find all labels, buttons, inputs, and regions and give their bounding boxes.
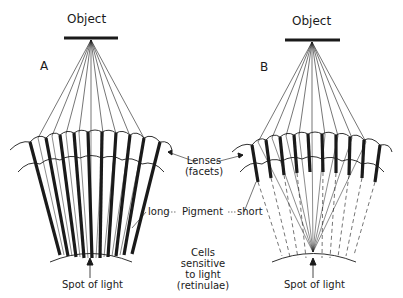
cells-label-line1: Cells (175, 247, 231, 258)
cells-label-line3: to light (175, 269, 231, 280)
lenses-label: Lenses (facets) (182, 155, 226, 177)
lenses-label-line1: Lenses (182, 155, 226, 166)
panel-a-drawing (10, 38, 172, 278)
panel-b-letter: B (260, 62, 268, 73)
pigment-short-label: short (237, 206, 263, 217)
pigment-label: Pigment (182, 206, 223, 217)
cells-label-line4: (retinulae) (175, 280, 231, 291)
lenses-label-line2: (facets) (182, 166, 226, 177)
panel-a-object-label: Object (67, 14, 106, 25)
panel-b-object-label: Object (292, 16, 331, 27)
pigment-long-label: long (148, 206, 170, 217)
cells-label: Cells sensitive to light (retinulae) (175, 247, 231, 291)
panel-a-letter: A (40, 61, 48, 72)
cells-label-line2: sensitive (175, 258, 231, 269)
panel-b-spot-label: Spot of light (284, 279, 345, 290)
compound-eye-diagram: Object Object A B Lenses (facets) long P… (0, 0, 403, 298)
panel-a-spot-label: Spot of light (62, 279, 123, 290)
